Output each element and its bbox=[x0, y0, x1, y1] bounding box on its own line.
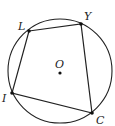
vertex-point-y bbox=[79, 22, 83, 26]
vertex-points bbox=[10, 22, 94, 115]
vertex-label-i: I bbox=[1, 92, 7, 105]
vertex-label-l: L bbox=[17, 20, 25, 33]
circle-o bbox=[8, 19, 112, 123]
center-label-o: O bbox=[55, 58, 64, 71]
inscribed-quadrilateral-diagram: O LYCI bbox=[0, 0, 115, 126]
vertex-point-i bbox=[10, 91, 14, 95]
center-point-o bbox=[58, 71, 61, 74]
quadrilateral-lyci bbox=[12, 24, 92, 113]
vertex-label-c: C bbox=[96, 114, 105, 126]
vertex-point-l bbox=[27, 29, 31, 33]
vertex-point-c bbox=[90, 111, 94, 115]
vertex-label-y: Y bbox=[84, 10, 93, 23]
